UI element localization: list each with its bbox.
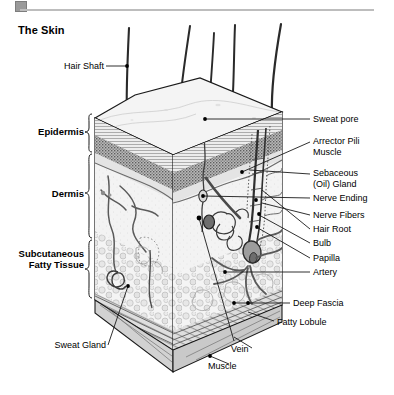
layer-label-subcutaneous: Subcutaneous Fatty Tissue [0,248,84,270]
dot-papilla [255,225,259,229]
callout-sweat-pore: Sweat pore [313,114,359,125]
brace-dermis [85,154,92,238]
callout-muscle: Muscle [208,361,237,372]
callout-bulb: Bulb [313,238,331,249]
diagram-page: The Skin Epidermis Dermis Subcutaneous F… [0,0,394,395]
layer-label-dermis: Dermis [0,188,84,199]
callout-nerve-fibers: Nerve Fibers [313,210,365,221]
page-title: The Skin [18,24,65,36]
callout-fatty-lobule: Fatty Lobule [277,317,327,328]
brace-epidermis [85,114,92,152]
dot-artery [223,270,227,274]
dot-vein [197,216,202,221]
brace-subcutaneous [85,240,92,298]
callout-arrector-pili-line2: Muscle [313,147,342,157]
callout-hair-root: Hair Root [313,224,351,235]
callout-arrector-pili-line1: Arrector Pili [313,136,360,146]
layer-label-subcutaneous-line2: Fatty Tissue [29,259,84,270]
nerve-corpuscle-dark [204,215,215,229]
dot-hair-shaft [125,64,129,68]
layer-braces [85,114,92,298]
dot-nerve-ending [201,194,205,198]
dot-sweat-gland [126,284,130,288]
callout-vein: Vein [231,344,249,355]
dot-bulb [257,212,261,216]
callout-artery: Artery [313,267,337,278]
callout-sebaceous-gland: Sebaceous (Oil) Gland [313,168,358,190]
callout-sebaceous-line2: (Oil) Gland [313,179,357,189]
dot-deep-fascia [232,301,236,305]
dot-fatty-lobule [246,301,250,305]
dot-arrector-pili [240,170,244,174]
dot-muscle [208,354,212,358]
callout-sweat-gland: Sweat Gland [0,340,106,351]
callout-deep-fascia: Deep Fascia [293,298,344,309]
callout-arrector-pili-muscle: Arrector Pili Muscle [313,136,360,158]
callout-sebaceous-line1: Sebaceous [313,168,358,178]
callout-hair-shaft: Hair Shaft [0,61,104,72]
callout-nerve-ending: Nerve Ending [313,193,368,204]
dot-sweat-pore [203,117,207,121]
layer-label-epidermis: Epidermis [0,126,84,137]
layer-label-subcutaneous-line1: Subcutaneous [19,248,84,259]
callout-papilla: Papilla [313,253,340,264]
dot-nerve-fibers [254,198,258,202]
